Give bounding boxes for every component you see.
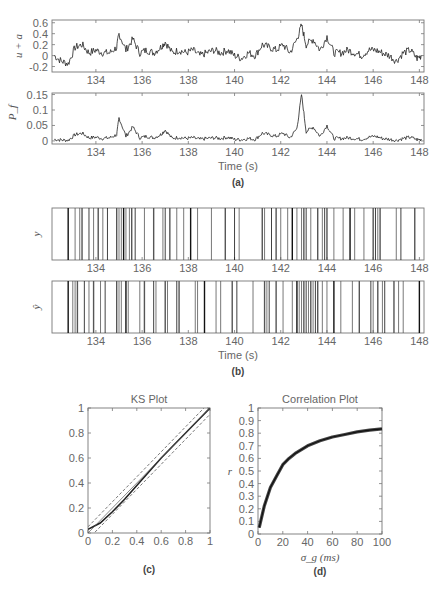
x-tick-label: 0.8 [178, 535, 193, 547]
panel-label-a: (a) [232, 177, 244, 188]
x-tick-label: 136 [133, 74, 151, 86]
x-tick-label: 0.2 [105, 535, 120, 547]
x-tick-label: 0 [255, 536, 261, 548]
axes-frame [258, 408, 382, 534]
y-axis-label: r [228, 465, 233, 477]
x-tick-label: 140 [225, 335, 243, 347]
raster-observed: 134136138140142144146148y [30, 208, 429, 274]
x-axis-label: Time (s) [218, 349, 258, 361]
x-tick-label: 100 [373, 536, 391, 548]
y-tick-label: 0.6 [33, 17, 48, 29]
y-tick-label: 0.15 [27, 89, 48, 101]
diagonal-line [88, 408, 210, 533]
raster-predicted: 134136138140142144146148ŷTime (s)(b) [30, 281, 429, 377]
x-tick-label: 144 [318, 335, 336, 347]
ks-curve [88, 408, 210, 529]
plot-firing-probability: 13413613814014214414614800.050.10.15P_fT… [6, 89, 429, 188]
y-tick-label: 0.8 [69, 427, 84, 439]
y-tick-label: 0.8 [239, 427, 254, 439]
x-tick-label: 134 [87, 262, 105, 274]
x-tick-label: 134 [87, 74, 105, 86]
axes-frame [52, 281, 424, 333]
y-tick-label: 1 [78, 402, 84, 414]
y-tick-label: 0.2 [69, 502, 84, 514]
y-tick-label: 0 [78, 527, 84, 539]
y-tick-label: 0.6 [69, 452, 84, 464]
x-tick-label: 138 [179, 146, 197, 158]
signal-line [54, 24, 421, 66]
x-axis-label: σ_g (ms) [301, 551, 340, 564]
panel-label-c: (c) [143, 564, 155, 575]
x-tick-label: 146 [364, 74, 382, 86]
x-tick-label: 148 [410, 74, 428, 86]
correlation-band [259, 429, 382, 528]
y-tick-label: 0.9 [239, 415, 254, 427]
x-tick-label: 146 [364, 262, 382, 274]
figure: 134136138140142144146148-0.200.20.40.6u … [0, 0, 444, 590]
x-tick-label: 142 [272, 74, 290, 86]
x-tick-label: 142 [272, 262, 290, 274]
x-tick-label: 140 [225, 146, 243, 158]
x-tick-label: 136 [133, 262, 151, 274]
x-tick-label: 140 [225, 262, 243, 274]
y-tick-label: 0.5 [239, 465, 254, 477]
y-tick-label: 0.1 [239, 515, 254, 527]
y-tick-label: 0.4 [33, 28, 48, 40]
y-tick-label: 1 [248, 402, 254, 414]
y-axis-label: u + a [12, 34, 24, 58]
x-tick-label: 144 [318, 262, 336, 274]
x-tick-label: 138 [179, 74, 197, 86]
x-tick-label: 144 [318, 74, 336, 86]
y-tick-label: 0.3 [239, 490, 254, 502]
y-tick-label: 0.05 [27, 119, 48, 131]
y-tick-label: 0.4 [239, 478, 254, 490]
x-tick-label: 148 [410, 262, 428, 274]
x-tick-label: 134 [87, 146, 105, 158]
x-tick-label: 138 [179, 262, 197, 274]
x-tick-label: 144 [318, 146, 336, 158]
axes-frame [52, 20, 424, 72]
x-tick-label: 146 [364, 146, 382, 158]
x-axis-label: Time (s) [218, 160, 258, 172]
x-tick-label: 146 [364, 335, 382, 347]
y-tick-label: 0 [42, 135, 48, 147]
x-tick-label: 0.6 [154, 535, 169, 547]
x-tick-label: 0.4 [129, 535, 144, 547]
x-tick-label: 136 [133, 335, 151, 347]
y-tick-label: 0.2 [239, 503, 254, 515]
x-tick-label: 148 [410, 146, 428, 158]
x-tick-label: 20 [277, 536, 289, 548]
y-axis-label: ŷ [30, 304, 42, 310]
y-tick-label: 0 [248, 528, 254, 540]
x-tick-label: 80 [351, 536, 363, 548]
x-tick-label: 136 [133, 146, 151, 158]
panel-label-d: (d) [314, 566, 327, 577]
y-tick-label: 0.4 [69, 477, 84, 489]
x-tick-label: 40 [301, 536, 313, 548]
x-tick-label: 0 [85, 535, 91, 547]
y-tick-label: 0.2 [33, 39, 48, 51]
confidence-bound [88, 414, 210, 539]
y-axis-label: P_f [6, 103, 18, 121]
y-tick-label: 0.1 [33, 104, 48, 116]
correlation-curve [259, 429, 382, 528]
confidence-bound [88, 402, 210, 527]
x-tick-label: 140 [225, 74, 243, 86]
x-tick-label: 142 [272, 335, 290, 347]
x-tick-label: 142 [272, 146, 290, 158]
axes-frame [52, 93, 424, 144]
chart-title: KS Plot [131, 393, 168, 405]
x-tick-label: 138 [179, 335, 197, 347]
probability-line [54, 95, 421, 142]
ks-plot: 00.20.40.60.8100.20.40.60.81KS Plot(c) [69, 393, 213, 575]
x-tick-label: 148 [410, 335, 428, 347]
y-tick-label: 0.7 [239, 440, 254, 452]
panel-label-b: (b) [232, 366, 245, 377]
plot-u-plus-a: 134136138140142144146148-0.200.20.40.6u … [12, 17, 429, 86]
chart-title: Correlation Plot [282, 393, 358, 405]
y-tick-label: 0.6 [239, 452, 254, 464]
y-tick-label: -0.2 [29, 61, 48, 73]
y-axis-label: y [30, 231, 42, 237]
x-tick-label: 134 [87, 335, 105, 347]
x-tick-label: 60 [326, 536, 338, 548]
